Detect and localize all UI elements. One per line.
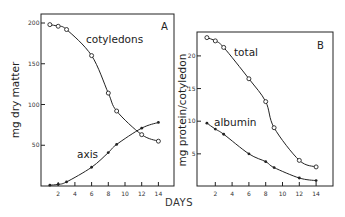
data-point-filled [206,122,209,125]
svg-text:20: 20 [188,52,196,59]
data-point-open [65,28,69,32]
y-tick: 20 [188,52,201,59]
panel-b-series [205,36,318,182]
x-axis-label-days: DAYS [165,197,193,208]
series-label-albumin: albumin [214,116,256,128]
svg-text:8: 8 [106,190,110,197]
data-point-open [213,39,217,43]
x-tick: 4 [73,182,77,197]
panel-b-frame [197,32,333,186]
x-tick: 10 [121,182,129,197]
x-tick: 4 [230,182,234,197]
data-point-filled [298,177,301,180]
data-point-open [247,77,251,81]
panel-b-y-ticks: 5101520 [188,52,201,157]
svg-text:14: 14 [312,190,320,197]
y-tick: 15 [188,85,201,92]
svg-text:50: 50 [32,141,40,148]
x-tick: 8 [264,182,268,197]
data-point-open [156,139,160,143]
data-point-open [106,91,110,95]
svg-text:100: 100 [28,101,40,108]
y-tick: 10 [188,117,201,124]
series-axis [48,121,159,187]
data-point-open [222,45,226,49]
x-tick: 12 [138,182,146,197]
data-point-open [90,54,94,58]
data-point-filled [273,166,276,169]
svg-text:10: 10 [279,190,287,197]
svg-text:5: 5 [192,150,196,157]
data-point-filled [48,184,51,187]
data-point-open [264,100,268,104]
svg-text:4: 4 [230,190,234,197]
panel-b-y-axis-label: mg protein/cotyledon [176,54,188,167]
svg-text:2: 2 [56,190,60,197]
x-tick: 12 [295,182,303,197]
series-label-cotyledons: cotyledons [86,33,143,45]
data-point-filled [214,128,217,131]
svg-text:200: 200 [28,19,40,26]
x-tick: 10 [279,182,287,197]
x-tick: 8 [106,182,110,197]
series-total [205,36,318,169]
svg-text:14: 14 [155,190,163,197]
svg-text:6: 6 [247,190,251,197]
svg-text:10: 10 [188,117,196,124]
y-tick: 50 [32,141,45,148]
data-point-open [56,24,60,28]
data-point-open [48,23,52,27]
x-tick: 2 [213,182,217,197]
panel-a-y-axis-label: mg dry matter [9,61,21,138]
data-point-open [205,36,209,40]
panel-b-letter: B [317,40,324,51]
svg-text:12: 12 [138,190,146,197]
panel-a-letter: A [161,21,168,32]
x-tick: 6 [90,182,94,197]
x-tick: 14 [155,182,163,197]
panel-a-x-ticks: 2468101214 [56,182,162,197]
svg-text:2: 2 [213,190,217,197]
svg-text:4: 4 [73,190,77,197]
panel-b-x-ticks: 2468101214 [213,182,320,197]
svg-text:8: 8 [264,190,268,197]
x-tick: 6 [247,182,251,197]
panel-a-series [48,23,161,187]
data-point-open [272,126,276,130]
x-tick: 14 [312,182,320,197]
data-point-filled [65,181,68,184]
data-point-filled [90,166,93,169]
data-point-filled [222,133,225,136]
data-point-filled [115,143,118,146]
y-tick: 100 [28,101,45,108]
svg-text:10: 10 [121,190,129,197]
data-point-filled [248,152,251,155]
svg-text:12: 12 [295,190,303,197]
svg-text:15: 15 [188,85,196,92]
data-point-open [314,165,318,169]
data-point-filled [140,127,143,130]
data-point-filled [157,121,160,124]
svg-text:6: 6 [90,190,94,197]
y-tick: 200 [28,19,45,26]
data-point-filled [107,151,110,154]
svg-text:150: 150 [28,60,40,67]
y-tick: 150 [28,60,45,67]
series-label-total: total [234,46,258,58]
panel-a-y-ticks: 50100150200 [28,19,45,148]
data-point-filled [57,183,60,186]
panel-a-chart: 2468101214 50100150200 A cotyledons axis… [9,14,174,197]
data-point-open [297,158,301,162]
data-point-filled [264,160,267,163]
panel-b-chart: 2468101214 5101520 B total albumin mg pr… [176,32,333,197]
figure: 2468101214 50100150200 A cotyledons axis… [0,0,345,217]
data-point-open [140,133,144,137]
data-point-filled [315,179,318,182]
y-tick: 5 [192,150,201,157]
data-point-open [115,109,119,113]
series-albumin [206,122,318,182]
series-label-axis: axis [77,148,98,160]
